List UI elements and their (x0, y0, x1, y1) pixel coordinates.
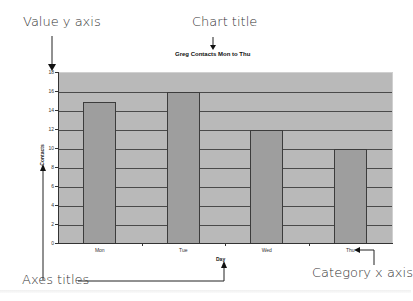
divider (0, 290, 411, 293)
callout-axes-titles: Axes titles (22, 272, 89, 287)
callout-category-x-axis: Category x axis (312, 265, 413, 280)
